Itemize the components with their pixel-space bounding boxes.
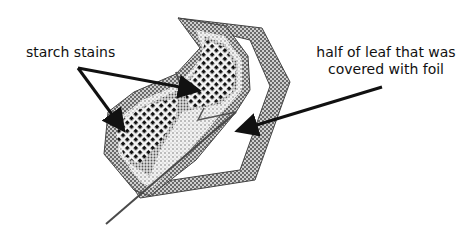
arrow-to-foil-half: [240, 87, 382, 130]
leaf-starch-diagram: starch stains half of leaf that was cove…: [0, 0, 462, 238]
foil-label-line-1: half of leaf that was: [316, 44, 456, 61]
foil-covered-half-label: half of leaf that was covered with foil: [316, 44, 456, 78]
starch-stained-half: [104, 18, 250, 196]
starch-stains-label: starch stains: [26, 44, 115, 61]
foil-label-line-2: covered with foil: [316, 61, 456, 78]
arrow-to-lower-stain: [78, 68, 122, 128]
leaf-illustration: [0, 0, 462, 238]
